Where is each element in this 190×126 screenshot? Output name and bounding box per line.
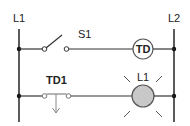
light-ray bbox=[124, 76, 130, 82]
timer-coil-td: TD bbox=[133, 39, 153, 59]
contact-label: TD1 bbox=[46, 74, 67, 86]
ladder-diagram: L1 L2 S1 TD TD1 bbox=[0, 0, 190, 126]
switch-s1 bbox=[42, 35, 69, 51]
light-ray bbox=[156, 111, 162, 117]
lamp-label: L1 bbox=[137, 71, 149, 83]
lamp-l1: L1 bbox=[124, 71, 162, 117]
right-rail-label: L2 bbox=[168, 12, 180, 24]
coil-label: TD bbox=[136, 43, 151, 55]
rung-1: S1 TD bbox=[17, 28, 176, 59]
rung-2: TD1 L1 bbox=[17, 71, 176, 117]
timed-contact-td1 bbox=[42, 94, 71, 113]
light-ray bbox=[124, 111, 130, 117]
switch-label: S1 bbox=[78, 28, 91, 40]
light-ray bbox=[156, 76, 162, 82]
left-rail-label: L1 bbox=[13, 12, 25, 24]
